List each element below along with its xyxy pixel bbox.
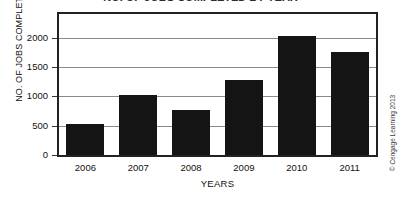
- y-tick-label: 0: [14, 150, 48, 160]
- bar-2011: [331, 52, 369, 155]
- bar-2006: [66, 124, 104, 155]
- x-tick-label-2009: 2009: [217, 162, 271, 173]
- copyright-notice: © Cengage Learning 2013: [388, 73, 398, 193]
- bar-2007: [119, 95, 157, 156]
- y-tick-label: 1500: [14, 62, 48, 72]
- bar-2008: [172, 110, 210, 155]
- x-tick-label-2008: 2008: [164, 162, 218, 173]
- y-tick-label: 1000: [14, 91, 48, 101]
- bar-2009: [225, 80, 263, 155]
- y-tick-label: 500: [14, 121, 48, 131]
- chart-title-cropped: NO. OF JOBS COMPLETED BY YEAR: [0, 0, 401, 3]
- gridline: [59, 126, 376, 127]
- gridline: [59, 96, 376, 97]
- x-tick-label-2006: 2006: [58, 162, 112, 173]
- x-tick-label-2007: 2007: [111, 162, 165, 173]
- plot-area: [57, 12, 378, 157]
- gridline: [59, 38, 376, 39]
- y-tick-label: 2000: [14, 33, 48, 43]
- plot-inner: [59, 14, 376, 155]
- x-axis-title: YEARS: [57, 178, 378, 189]
- x-tick-label-2010: 2010: [270, 162, 324, 173]
- bar-2010: [278, 36, 316, 155]
- x-tick-label-2011: 2011: [323, 162, 377, 173]
- chart-screenshot: NO. OF JOBS COMPLETED BY YEAR NO. OF JOB…: [0, 0, 401, 203]
- chart-title-text: NO. OF JOBS COMPLETED BY YEAR: [0, 0, 401, 3]
- gridline: [59, 67, 376, 68]
